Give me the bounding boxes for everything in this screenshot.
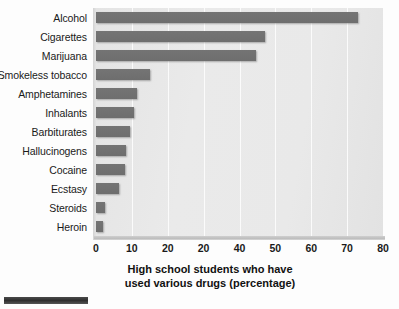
x-tick-label: 80 [377, 242, 389, 254]
bar-series [96, 8, 383, 236]
bar-row [96, 103, 383, 122]
bar [96, 145, 126, 156]
bar [96, 107, 134, 118]
x-tick-label: 20 [198, 242, 210, 254]
category-label: Hallucinogens [0, 141, 92, 160]
bar [96, 88, 137, 99]
bar-row [96, 65, 383, 84]
category-label: Marijuana [0, 46, 92, 65]
bar [96, 50, 256, 61]
bar-row [96, 122, 383, 141]
category-label: Smokeless tobacco [0, 65, 92, 84]
category-label: Cigarettes [0, 27, 92, 46]
x-tick-label: 70 [341, 242, 353, 254]
category-label: Heroin [0, 217, 92, 236]
bar-row [96, 46, 383, 65]
bar [96, 202, 105, 213]
bar [96, 126, 130, 137]
bar-row [96, 84, 383, 103]
bar-row [96, 141, 383, 160]
category-label: Steroids [0, 198, 92, 217]
x-tick-label: 10 [126, 242, 138, 254]
chart-screenshot: AlcoholCigarettesMarijuanaSmokeless toba… [0, 0, 399, 309]
bar [96, 221, 103, 232]
plot-baseline [94, 236, 385, 240]
category-label: Barbiturates [0, 122, 92, 141]
bar [96, 164, 125, 175]
category-label: Alcohol [0, 8, 92, 27]
x-tick-label: 50 [270, 242, 282, 254]
category-label: Cocaine [0, 160, 92, 179]
page-artifact-bar [4, 297, 88, 304]
x-tick-label: 40 [234, 242, 246, 254]
x-tick-label: 0 [93, 242, 99, 254]
bar-row [96, 217, 383, 236]
bar-row [96, 160, 383, 179]
x-axis-title-line-2: used various drugs (percentage) [60, 276, 360, 290]
category-axis: AlcoholCigarettesMarijuanaSmokeless toba… [0, 8, 92, 236]
bar-chart-figure: AlcoholCigarettesMarijuanaSmokeless toba… [0, 0, 399, 309]
category-label: Amphetamines [0, 84, 92, 103]
bar [96, 12, 358, 23]
x-axis-title: High school students who have used vario… [60, 262, 360, 290]
bar [96, 69, 150, 80]
bar [96, 183, 119, 194]
bar-row [96, 8, 383, 27]
plot-area [96, 8, 383, 236]
category-label: Ecstasy [0, 179, 92, 198]
x-axis-title-line-1: High school students who have [60, 262, 360, 276]
x-tick-label: 60 [305, 242, 317, 254]
bar [96, 31, 265, 42]
bar-row [96, 198, 383, 217]
category-label: Inhalants [0, 103, 92, 122]
bar-row [96, 27, 383, 46]
bar-row [96, 179, 383, 198]
x-axis-tick-labels: 01020204050607080 [96, 242, 383, 258]
x-tick-label: 20 [162, 242, 174, 254]
